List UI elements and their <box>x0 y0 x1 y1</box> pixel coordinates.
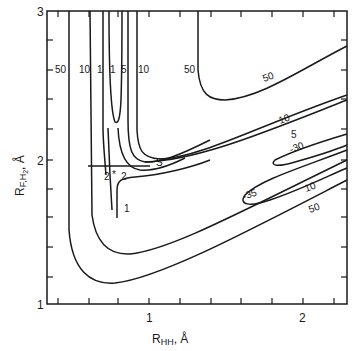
contour-label-50-d: 50 <box>307 201 322 215</box>
y-tick-label-2: 2 <box>37 154 44 168</box>
saddle-marker: * <box>112 169 116 180</box>
y-tick-label-3: 3 <box>37 5 44 19</box>
contour-50-upper <box>198 11 347 100</box>
x-axis-title: RHH, Å <box>152 331 188 347</box>
contour-label-1-b: 1 <box>110 64 116 75</box>
contour-label-10-c: 10 <box>277 112 292 126</box>
x-axis-ticks <box>58 11 334 304</box>
contour-1-lower <box>117 160 210 218</box>
contour-label-10-b: 10 <box>138 64 150 75</box>
contour-label-2-b: 2 <box>121 171 127 182</box>
contour-lines <box>69 11 347 283</box>
contour-5-right <box>145 100 347 162</box>
contour-label-5-b: 5 <box>291 129 297 140</box>
y-axis-title: RF,H2, Å <box>12 155 29 196</box>
contour-neg35 <box>243 150 347 204</box>
contour-plot: 3 2 1 1 2 RHH, Å RF,H2, Å S * <box>0 0 355 351</box>
contour-10-inner <box>137 11 347 159</box>
contour-label-50-a: 50 <box>55 64 67 75</box>
contour-neg30 <box>273 134 347 165</box>
contour-label-1-a: 1 <box>97 64 103 75</box>
x-tick-label-2: 2 <box>299 311 306 325</box>
contour-label-5-a: 5 <box>121 64 127 75</box>
x-tick-label-1: 1 <box>146 311 153 325</box>
contour-label-neg30: -30 <box>288 139 306 154</box>
contour-label-50-c: 50 <box>261 70 276 84</box>
contour-1-left-upper <box>103 11 106 175</box>
contour-label-10-a: 10 <box>79 64 91 75</box>
y-tick-label-1: 1 <box>37 298 44 312</box>
contour-label-2-a: 2 <box>104 171 110 182</box>
contour-label-1-c: 1 <box>124 203 130 214</box>
contour-label-neg35: -35 <box>241 186 259 201</box>
contour-label-50-b: 50 <box>184 64 196 75</box>
s-label: S <box>156 157 163 168</box>
